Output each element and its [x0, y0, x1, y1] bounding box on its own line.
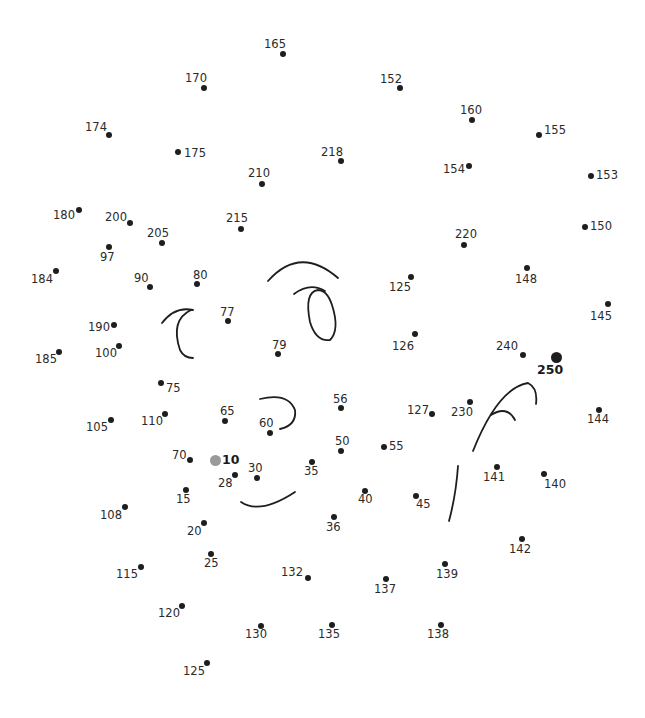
dot-215[interactable]	[238, 226, 244, 232]
dot-label: 174	[85, 122, 107, 134]
start-dot[interactable]	[210, 455, 221, 466]
dot-label: 230	[451, 407, 473, 419]
dot-label: 20	[187, 526, 202, 538]
dot-label: 35	[304, 466, 319, 478]
right-eye-brow	[268, 262, 338, 281]
dot-65[interactable]	[222, 418, 228, 424]
dot-160[interactable]	[469, 117, 475, 123]
dot-105[interactable]	[108, 417, 114, 423]
dot-20[interactable]	[201, 520, 207, 526]
dot-165[interactable]	[280, 51, 286, 57]
mouth-curve	[241, 492, 295, 507]
dot-label: 184	[31, 274, 53, 286]
dot-210[interactable]	[259, 181, 265, 187]
dot-132[interactable]	[305, 575, 311, 581]
dot-label: 140	[544, 479, 566, 491]
dot-label: 75	[166, 383, 181, 395]
right-eye-oval	[294, 287, 325, 294]
dot-label: 108	[100, 510, 122, 522]
dot-label: 240	[496, 341, 518, 353]
dot-126[interactable]	[412, 331, 418, 337]
dot-label: 218	[321, 147, 343, 159]
dot-label: 142	[509, 544, 531, 556]
dot-label: 110	[141, 416, 163, 428]
dot-label: 210	[248, 168, 270, 180]
dot-127[interactable]	[429, 411, 435, 417]
dot-label: 155	[544, 125, 566, 137]
dot-label: 144	[587, 414, 609, 426]
dot-label: 100	[95, 348, 117, 360]
dot-150[interactable]	[582, 224, 588, 230]
dot-label: 65	[220, 406, 235, 418]
hand-arc	[473, 383, 536, 451]
dot-label: 56	[333, 394, 348, 406]
dot-154[interactable]	[466, 163, 472, 169]
body-line	[449, 466, 458, 521]
right-eye-pupil	[308, 290, 335, 340]
dot-label: 135	[318, 629, 340, 641]
dot-184[interactable]	[53, 268, 59, 274]
dot-label: 148	[515, 274, 537, 286]
dot-label: 145	[590, 311, 612, 323]
dot-label: 165	[264, 39, 286, 51]
dot-55[interactable]	[381, 444, 387, 450]
hand-finger	[491, 411, 515, 420]
dot-label: 137	[374, 584, 396, 596]
dot-label: 77	[220, 307, 235, 319]
dot-label: 215	[226, 213, 248, 225]
dot-155[interactable]	[536, 132, 542, 138]
end-dot[interactable]	[551, 352, 562, 363]
dot-70[interactable]	[187, 457, 193, 463]
dot-label: 180	[53, 210, 75, 222]
dot-label: 125	[183, 666, 205, 678]
dot-108[interactable]	[122, 504, 128, 510]
dot-190[interactable]	[111, 322, 117, 328]
left-eye-arc	[162, 309, 193, 358]
dot-label: 190	[88, 322, 110, 334]
dot-label: 60	[259, 418, 274, 430]
dot-60[interactable]	[267, 430, 273, 436]
dot-label: 10	[222, 454, 239, 467]
dot-label: 141	[483, 472, 505, 484]
dot-label: 150	[590, 221, 612, 233]
dot-28[interactable]	[232, 472, 238, 478]
dot-label: 160	[460, 105, 482, 117]
dot-180[interactable]	[76, 207, 82, 213]
dot-175[interactable]	[175, 149, 181, 155]
dot-label: 130	[245, 629, 267, 641]
dot-148[interactable]	[524, 265, 530, 271]
dot-75[interactable]	[158, 380, 164, 386]
dot-label: 36	[326, 522, 341, 534]
dot-145[interactable]	[605, 301, 611, 307]
dot-label: 200	[105, 212, 127, 224]
dot-label: 30	[248, 463, 263, 475]
dot-240[interactable]	[520, 352, 526, 358]
dot-label: 139	[436, 569, 458, 581]
dot-label: 50	[335, 436, 350, 448]
dot-label: 170	[185, 73, 207, 85]
dot-label: 120	[158, 608, 180, 620]
dot-label: 90	[134, 273, 149, 285]
dot-205[interactable]	[159, 240, 165, 246]
dot-170[interactable]	[201, 85, 207, 91]
dot-label: 132	[281, 567, 303, 579]
dot-label: 154	[443, 164, 465, 176]
dot-220[interactable]	[461, 242, 467, 248]
dot-label: 115	[116, 569, 138, 581]
dot-label: 25	[204, 558, 219, 570]
dot-115[interactable]	[138, 564, 144, 570]
dot-label: 205	[147, 228, 169, 240]
dot-label: 185	[35, 354, 57, 366]
dot-label: 220	[455, 229, 477, 241]
dot-label: 45	[416, 499, 431, 511]
dot-153[interactable]	[588, 173, 594, 179]
dot-label: 125	[389, 282, 411, 294]
dot-label: 153	[596, 170, 618, 182]
dot-label: 15	[176, 494, 191, 506]
dot-label: 55	[389, 441, 404, 453]
dot-200[interactable]	[127, 220, 133, 226]
dot-to-dot-board: 1651701521601741551752181541532101802002…	[0, 0, 645, 718]
dot-label: 127	[407, 405, 429, 417]
dot-30[interactable]	[254, 475, 260, 481]
dot-50[interactable]	[338, 448, 344, 454]
